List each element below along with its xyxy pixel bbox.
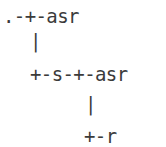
ascii-tree-diagram: .-+-asr | +-s-+-asr | +-r: [0, 0, 166, 147]
ascii-line-root-connector: |: [30, 32, 41, 51]
ascii-line-second-branch: +-s-+-asr: [30, 65, 128, 84]
ascii-line-second-connector: |: [85, 95, 96, 114]
ascii-line-root-branch: .-+-asr: [3, 7, 79, 26]
ascii-line-leaf-branch: +-r: [84, 127, 117, 146]
